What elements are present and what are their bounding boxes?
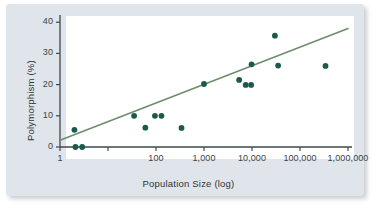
x-tick-label: 1 [10,153,110,163]
data-point [131,113,137,119]
chart-svg [6,4,364,196]
data-point [272,33,278,39]
data-point [248,82,254,88]
figure-container: 010203040 11001,00010,000100,0001,000,00… [0,0,377,209]
data-point [275,63,281,69]
data-point [142,125,148,131]
y-axis-title: Polymorphism (%) [25,60,36,141]
data-point [243,82,249,88]
y-tick-label: 20 [43,79,53,89]
chart-panel: 010203040 11001,00010,000100,0001,000,00… [6,4,364,196]
data-point [179,125,185,131]
y-tick-label: 30 [43,47,53,57]
x-tick-label: 1,000,000 [298,153,377,163]
data-point [152,113,158,119]
x-axis-title: Population Size (log) [0,178,377,189]
y-tick-label: 0 [48,141,53,151]
data-point [201,81,207,87]
data-point [323,63,329,69]
data-point [79,144,85,150]
data-point [159,113,165,119]
data-point [249,61,255,67]
data-point [236,77,242,83]
y-tick-label: 40 [43,16,53,26]
data-point [72,127,78,133]
data-point [73,144,79,150]
y-tick-label: 10 [43,110,53,120]
